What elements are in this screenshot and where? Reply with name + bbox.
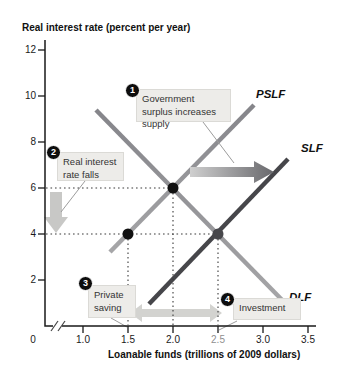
x-tick-2.0: 2.0 [158,334,188,345]
saving-investment-double-arrow [130,304,222,322]
y-tick-marks [38,50,45,280]
x-axis-title: Loanable funds (trillions of 2009 dollar… [108,349,300,360]
callout-investment: Investment [233,298,301,320]
rate-falls-down-arrow [44,192,68,233]
dlf-demand-curve [96,110,288,306]
y-tick-10: 10 [12,90,36,101]
x-tick-3.0: 3.0 [248,334,278,345]
callout-4-number-badge: 4 [220,292,235,307]
loanable-funds-chart: Real interest rate (percent per year) Lo… [0,0,340,369]
supply-shift-right-arrow [190,161,274,183]
callout-1-number-badge: 1 [125,83,140,98]
y-tick-2: 2 [12,274,36,285]
y-tick-4: 4 [12,228,36,239]
old-equilibrium-dot [168,183,179,194]
x-tick-2.5: 2.5 [203,334,233,345]
y-axis-title: Real interest rate (percent per year) [22,22,190,33]
callout-government-surplus: Government surplus increases supply [136,89,231,122]
x-tick-marks [83,326,308,333]
y-tick-6: 6 [12,182,36,193]
x-tick-1.0: 1.0 [68,334,98,345]
callout2-pointer-line [61,181,85,212]
callout-private-saving: Private saving [88,285,136,318]
x-tick-3.5: 3.5 [293,334,323,345]
y-tick-12: 12 [12,44,36,55]
callout-3-number-badge: 3 [78,276,93,291]
private-saving-dot [123,229,134,240]
x-tick-1.5: 1.5 [113,334,143,345]
pslf-curve-label: PSLF [256,88,285,100]
callout-rate-falls: Real interest rate falls [57,152,124,181]
callout-2-number-badge: 2 [46,145,61,160]
x-tick-0: 0 [18,334,48,345]
slf-curve-label: SLF [301,142,323,154]
y-tick-8: 8 [12,136,36,147]
new-equilibrium-dot [213,229,224,240]
